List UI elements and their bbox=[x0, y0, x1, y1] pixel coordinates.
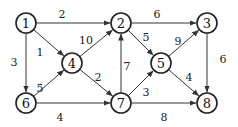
node-6: 6 bbox=[16, 93, 36, 113]
edge-7-5 bbox=[128, 70, 154, 96]
edge-2-5 bbox=[128, 30, 154, 56]
edge-weight-label: 5 bbox=[143, 31, 150, 44]
edge-5-8 bbox=[169, 70, 200, 97]
edge-weight-label: 5 bbox=[37, 82, 44, 95]
edge-weight-label: 3 bbox=[143, 86, 150, 99]
node-4: 4 bbox=[62, 53, 82, 73]
edge-weight-label: 4 bbox=[186, 71, 193, 84]
edge-weight-label: 6 bbox=[220, 53, 227, 66]
node-label: 6 bbox=[22, 96, 30, 111]
node-5: 5 bbox=[151, 53, 171, 73]
node-label: 8 bbox=[203, 96, 211, 111]
node-label: 5 bbox=[157, 56, 165, 71]
edge-weight-label: 2 bbox=[95, 71, 102, 84]
nodes-layer: 12345678 bbox=[16, 13, 217, 113]
edge-weight-label: 1 bbox=[37, 46, 44, 59]
graph-diagram: 2135102476593468 12345678 bbox=[0, 0, 238, 127]
node-label: 7 bbox=[117, 96, 125, 111]
node-2: 2 bbox=[111, 13, 131, 33]
edge-weight-label: 7 bbox=[124, 60, 131, 73]
node-label: 1 bbox=[22, 16, 30, 31]
edge-weight-label: 4 bbox=[57, 111, 64, 124]
edge-5-3 bbox=[169, 30, 200, 57]
edge-weight-label: 9 bbox=[175, 35, 182, 48]
graph-svg: 2135102476593468 12345678 bbox=[0, 0, 238, 127]
node-1: 1 bbox=[16, 13, 36, 33]
node-7: 7 bbox=[111, 93, 131, 113]
node-3: 3 bbox=[197, 13, 217, 33]
node-label: 4 bbox=[68, 56, 76, 71]
edge-weight-label: 10 bbox=[79, 34, 93, 47]
edge-weight-label: 3 bbox=[11, 56, 18, 69]
node-8: 8 bbox=[197, 93, 217, 113]
edge-weight-label: 8 bbox=[161, 111, 168, 124]
edge-weight-label: 2 bbox=[59, 8, 66, 21]
edge-weight-label: 6 bbox=[154, 8, 161, 21]
node-label: 3 bbox=[203, 16, 211, 31]
node-label: 2 bbox=[117, 16, 125, 31]
